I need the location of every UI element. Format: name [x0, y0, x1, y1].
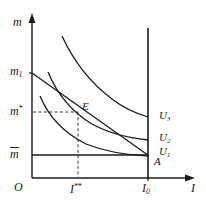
x-tick-I0: I0	[142, 182, 150, 196]
indifference-curve-u3	[62, 36, 148, 117]
y-tick-m-star: m*	[10, 104, 22, 117]
curve-label-u2: U2	[159, 132, 170, 145]
indifference-curve-u2	[48, 72, 148, 140]
point-label-a: A	[154, 156, 161, 167]
y-tick-m-bar: m	[10, 147, 19, 160]
y-axis	[29, 13, 36, 178]
x-axis	[32, 175, 195, 182]
x-axis-label: I	[191, 182, 195, 194]
figure-canvas	[0, 0, 206, 206]
indifference-curve-u1	[40, 96, 148, 156]
y-tick-m1: m1	[10, 65, 22, 79]
curve-label-u3: U3	[159, 110, 170, 123]
indifference-curve-figure: m I O m1 m* m I** I0 U3 U2 U1 E A	[0, 0, 206, 206]
point-label-e: E	[82, 101, 89, 112]
origin-label: O	[14, 181, 23, 193]
x-tick-I-star-star: I**	[70, 182, 82, 195]
y-axis-label: m	[13, 16, 22, 28]
